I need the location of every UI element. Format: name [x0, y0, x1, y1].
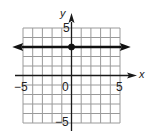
- x-axis-label: x: [138, 68, 145, 80]
- x-tick-zero: 0: [62, 80, 69, 94]
- x-tick-neg5: −5: [14, 80, 28, 94]
- plotted-line: [12, 43, 131, 51]
- x-tick-pos5: 5: [116, 80, 123, 94]
- y-tick-neg5: −5: [55, 115, 69, 129]
- y-axis-label: y: [59, 7, 67, 19]
- point-marker: [69, 44, 75, 50]
- y-tick-pos5: 5: [63, 21, 70, 35]
- coordinate-plane: x y −5 0 5 5 −5: [0, 0, 154, 138]
